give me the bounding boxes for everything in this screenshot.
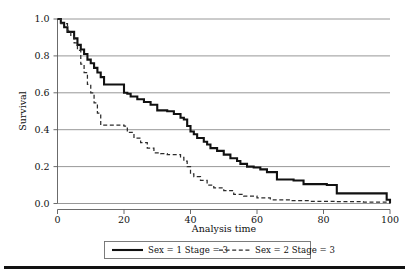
y-tick-label: 1.0 xyxy=(34,13,49,24)
gridlines-group xyxy=(58,19,391,204)
y-tick-label: 0.4 xyxy=(34,124,49,135)
y-axis-ticks xyxy=(54,19,58,204)
legend: Sex = 1 Stage = 3 Sex = 2 Stage = 3 xyxy=(105,242,335,259)
x-tick-label: 20 xyxy=(118,214,130,225)
x-tick-label: 80 xyxy=(317,214,329,225)
x-axis-title: Analysis time xyxy=(191,223,257,234)
survival-curve-sex-1-stage-3 xyxy=(58,19,391,204)
survival-chart-figure: 0.00.20.40.60.81.0 020406080100 Analysis… xyxy=(0,0,409,276)
y-tick-label: 0.2 xyxy=(34,161,49,172)
survival-curve-sex-2-stage-3 xyxy=(58,19,391,203)
kaplan-meier-plot: 0.00.20.40.60.81.0 020406080100 Analysis… xyxy=(0,0,409,276)
y-axis-title: Survival xyxy=(17,91,28,131)
y-axis-tick-labels: 0.00.20.40.60.81.0 xyxy=(34,13,49,209)
x-tick-label: 0 xyxy=(54,214,60,225)
y-tick-label: 0.8 xyxy=(34,50,49,61)
legend-label-sex-1: Sex = 1 Stage = 3 xyxy=(148,245,228,255)
legend-label-sex-2: Sex = 2 Stage = 3 xyxy=(255,245,335,255)
x-axis-ticks xyxy=(58,210,391,215)
x-tick-label: 100 xyxy=(381,214,399,225)
y-tick-label: 0.0 xyxy=(34,198,49,209)
y-tick-label: 0.6 xyxy=(34,87,49,98)
